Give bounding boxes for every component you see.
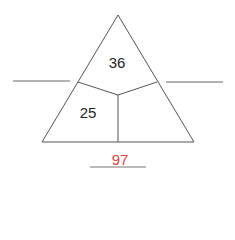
answer-value: 97 <box>112 152 129 167</box>
bottom-left-region-value: 25 <box>80 105 97 120</box>
top-region-value: 36 <box>109 55 126 70</box>
inner-divider <box>78 82 157 95</box>
